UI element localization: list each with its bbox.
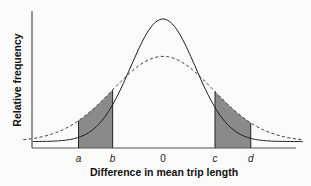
x-tick-labels: ab0cd [76, 153, 254, 164]
shaded-regions [79, 90, 251, 148]
series-line-wide-distribution [23, 56, 303, 139]
y-axis-label: Relative frequency [11, 33, 23, 127]
x-tick-label-d: d [248, 153, 254, 164]
x-tick-label-a: a [76, 153, 82, 164]
x-tick-label-0: 0 [160, 153, 166, 164]
shaded-region-2 [215, 92, 251, 148]
x-tick-label-b: b [110, 153, 116, 164]
shaded-region-1 [79, 90, 113, 148]
x-tick-label-c: c [213, 153, 218, 164]
x-axis-label: Difference in mean trip length [90, 166, 238, 178]
series-line-narrow-distribution [33, 19, 303, 142]
chart: ab0cd Difference in mean trip length Rel… [0, 0, 311, 186]
